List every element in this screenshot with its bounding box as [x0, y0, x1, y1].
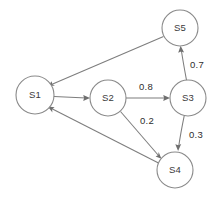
edge-s5-to-s1[interactable] [48, 37, 164, 87]
edge-line-s5-s1 [52, 37, 164, 85]
node-label-s2: S2 [102, 92, 114, 103]
node-label-s3: S3 [182, 92, 194, 103]
edge-label-s3-s5: 0.7 [190, 59, 204, 70]
edge-line-s3-s4 [179, 116, 185, 147]
edge-s1-to-s2[interactable] [54, 95, 90, 101]
node-label-s1: S1 [29, 89, 41, 100]
node-s2[interactable]: S2 [90, 80, 126, 116]
state-transition-graph: 0.8 0.7 0.3 0.2 [0, 0, 222, 201]
edge-line-s1-s2 [54, 97, 87, 99]
node-s4[interactable]: S4 [157, 152, 193, 188]
arrowhead-s2-s3 [163, 95, 170, 101]
edge-s3-to-s4[interactable]: 0.3 [175, 116, 203, 151]
edge-line-s3-s5 [181, 50, 186, 81]
node-s3[interactable]: S3 [170, 80, 206, 116]
edge-label-s2-s4: 0.2 [140, 115, 154, 126]
node-label-s4: S4 [169, 164, 181, 175]
arrowhead-s3-s4 [175, 144, 181, 151]
edge-label-s2-s3: 0.8 [139, 81, 153, 92]
node-label-s5: S5 [174, 22, 186, 33]
node-s5[interactable]: S5 [162, 10, 198, 46]
edge-s2-to-s4[interactable]: 0.2 [121, 112, 162, 159]
edge-label-s3-s4: 0.3 [189, 129, 203, 140]
edge-s3-to-s5[interactable]: 0.7 [178, 46, 204, 80]
node-layer: S1 S2 S3 S4 S5 [16, 10, 206, 188]
state-diagram-canvas: 0.8 0.7 0.3 0.2 [0, 0, 222, 201]
edge-s2-to-s3[interactable]: 0.8 [126, 81, 170, 101]
node-s1[interactable]: S1 [16, 76, 54, 114]
arrowhead-s1-s2 [83, 95, 90, 101]
